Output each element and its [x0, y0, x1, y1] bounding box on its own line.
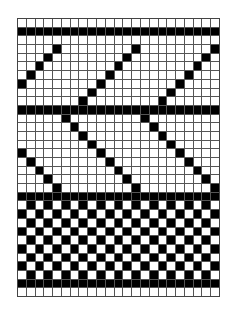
grid-cell — [44, 184, 52, 192]
grid-cell — [194, 36, 202, 44]
grid-cell — [141, 288, 149, 296]
grid-cell — [44, 36, 52, 44]
grid-cell — [150, 245, 158, 253]
grid-cell — [123, 28, 131, 36]
grid-cell — [79, 262, 87, 270]
grid-cell — [71, 36, 79, 44]
grid-cell — [97, 45, 105, 53]
grid-cell — [36, 271, 44, 279]
grid-cell — [132, 219, 140, 227]
grid-cell — [71, 89, 79, 97]
grid-cell — [88, 184, 96, 192]
grid-cell — [141, 45, 149, 53]
grid-cell — [53, 89, 61, 97]
grid-cell — [194, 115, 202, 123]
grid-cell — [211, 80, 219, 88]
grid-cell — [62, 36, 70, 44]
grid-cell — [202, 158, 210, 166]
grid-cell — [36, 36, 44, 44]
grid-cell — [44, 271, 52, 279]
grid-cell — [167, 45, 175, 53]
grid-cell — [132, 245, 140, 253]
grid-cell — [88, 123, 96, 131]
grid-cell — [115, 89, 123, 97]
grid-cell — [211, 210, 219, 218]
grid-cell — [150, 236, 158, 244]
grid-cell — [62, 97, 70, 105]
grid-cell — [106, 288, 114, 296]
grid-cell — [211, 115, 219, 123]
grid-cell — [88, 236, 96, 244]
grid-cell — [123, 71, 131, 79]
grid-cell — [123, 149, 131, 157]
grid-cell — [115, 62, 123, 70]
grid-cell — [27, 262, 35, 270]
grid-cell — [176, 175, 184, 183]
grid-cell — [106, 141, 114, 149]
grid-cell — [71, 45, 79, 53]
grid-cell — [115, 280, 123, 288]
grid-cell — [123, 158, 131, 166]
grid-cell — [115, 245, 123, 253]
grid-cell — [44, 54, 52, 62]
grid-cell — [79, 45, 87, 53]
grid-cell — [53, 141, 61, 149]
grid-cell — [115, 106, 123, 114]
grid-cell — [62, 28, 70, 36]
grid-cell — [132, 54, 140, 62]
grid-cell — [88, 228, 96, 236]
grid-cell — [36, 184, 44, 192]
grid-cell — [18, 36, 26, 44]
grid-cell — [185, 175, 193, 183]
grid-cell — [36, 262, 44, 270]
grid-cell — [79, 62, 87, 70]
grid-cell — [185, 115, 193, 123]
grid-cell — [115, 288, 123, 296]
grid-cell — [132, 106, 140, 114]
grid-cell — [88, 254, 96, 262]
grid-cell — [132, 62, 140, 70]
grid-cell — [194, 71, 202, 79]
grid-cell — [27, 132, 35, 140]
grid-cell — [79, 271, 87, 279]
grid-cell — [202, 167, 210, 175]
grid-cell — [176, 89, 184, 97]
grid-cell — [167, 123, 175, 131]
grid-cell — [88, 19, 96, 27]
grid-cell — [115, 167, 123, 175]
grid-cell — [53, 201, 61, 209]
grid-cell — [194, 280, 202, 288]
grid-cell — [185, 167, 193, 175]
grid-cell — [159, 36, 167, 44]
grid-cell — [36, 254, 44, 262]
grid-cell — [132, 97, 140, 105]
grid-cell — [185, 97, 193, 105]
grid-cell — [106, 106, 114, 114]
grid-cell — [97, 175, 105, 183]
grid-cell — [123, 219, 131, 227]
grid-cell — [132, 167, 140, 175]
grid-cell — [202, 288, 210, 296]
grid-cell — [36, 54, 44, 62]
grid-cell — [27, 193, 35, 201]
grid-cell — [27, 167, 35, 175]
grid-cell — [123, 254, 131, 262]
grid-cell — [194, 193, 202, 201]
grid-cell — [106, 228, 114, 236]
grid-cell — [97, 62, 105, 70]
grid-cell — [211, 54, 219, 62]
grid-cell — [62, 62, 70, 70]
grid-cell — [167, 158, 175, 166]
grid-cell — [159, 236, 167, 244]
grid-cell — [115, 19, 123, 27]
grid-cell — [53, 288, 61, 296]
grid-cell — [62, 89, 70, 97]
grid-cell — [18, 193, 26, 201]
grid-cell — [71, 210, 79, 218]
grid-cell — [123, 106, 131, 114]
grid-cell — [211, 271, 219, 279]
grid-cell — [211, 288, 219, 296]
grid-cell — [97, 158, 105, 166]
grid-cell — [18, 280, 26, 288]
grid-cell — [27, 71, 35, 79]
